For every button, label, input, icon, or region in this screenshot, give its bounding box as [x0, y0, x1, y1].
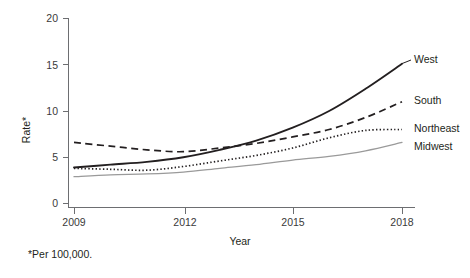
series-line-south [74, 102, 402, 152]
line-chart-figure: 20 15 10 5 0 Rate* 2009 2012 2015 2018 Y… [0, 0, 470, 278]
series-label-south: South [414, 94, 442, 106]
series-label-northeast: Northeast [414, 122, 460, 134]
y-tick-label-20: 20 [46, 12, 58, 24]
series-line-west [74, 64, 402, 168]
y-tick-label-10: 10 [46, 105, 58, 117]
y-tick-label-15: 15 [46, 59, 58, 71]
series-label-west: West [414, 53, 438, 65]
label-leaders [402, 60, 411, 64]
leader-west [402, 60, 411, 64]
x-tick-label-2018: 2018 [390, 216, 414, 228]
x-tick-label-2015: 2015 [281, 216, 305, 228]
y-axis-ticks [63, 19, 69, 204]
y-tick-label-0: 0 [52, 197, 58, 209]
x-tick-label-2009: 2009 [62, 216, 86, 228]
x-axis-title: Year [229, 235, 251, 247]
chart-footnote: *Per 100,000. [28, 248, 92, 260]
y-axis-title: Rate* [20, 117, 32, 143]
y-tick-label-5: 5 [52, 151, 58, 163]
x-tick-label-2012: 2012 [173, 216, 197, 228]
x-axis-ticks [74, 208, 402, 214]
series-label-midwest: Midwest [414, 140, 453, 152]
